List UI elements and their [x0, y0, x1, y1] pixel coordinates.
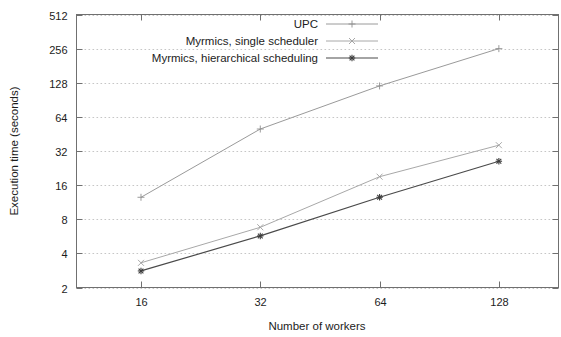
series-line-0: [141, 49, 499, 198]
x-tick-label: 64: [374, 296, 386, 308]
legend-label-0: UPC: [294, 18, 318, 30]
series-line-1: [141, 145, 499, 263]
y-tick-label: 4: [61, 248, 67, 260]
y-tick-label: 16: [55, 180, 67, 192]
data-series-group: [137, 45, 502, 274]
legend-label-1: Myrmics, single scheduler: [186, 35, 318, 47]
y-axis-title: Execution time (seconds): [8, 86, 20, 215]
legend-label-2: Myrmics, hierarchical scheduling: [152, 52, 318, 64]
x-axis-title: Number of workers: [268, 320, 365, 332]
series-line-2: [141, 161, 499, 271]
y-tick-label: 64: [55, 112, 67, 124]
x-tick-label: 128: [490, 296, 508, 308]
y-axis-tick-labels: 248163264128256512: [49, 10, 67, 295]
line-chart-canvas: 248163264128256512 163264128 UPCMyrmics,…: [0, 0, 561, 337]
chart-figure: 248163264128256512 163264128 UPCMyrmics,…: [0, 0, 561, 337]
y-tick-label: 32: [55, 146, 67, 158]
y-tick-label: 8: [61, 214, 67, 226]
y-tick-label: 2: [61, 283, 67, 295]
y-tick-label: 512: [49, 10, 67, 22]
x-tick-label: 32: [254, 296, 266, 308]
y-tick-label: 256: [49, 44, 67, 56]
x-axis-tick-labels: 163264128: [135, 296, 508, 308]
y-tick-label: 128: [49, 78, 67, 90]
x-tick-label: 16: [135, 296, 147, 308]
chart-legend: UPCMyrmics, single schedulerMyrmics, hie…: [152, 18, 378, 64]
